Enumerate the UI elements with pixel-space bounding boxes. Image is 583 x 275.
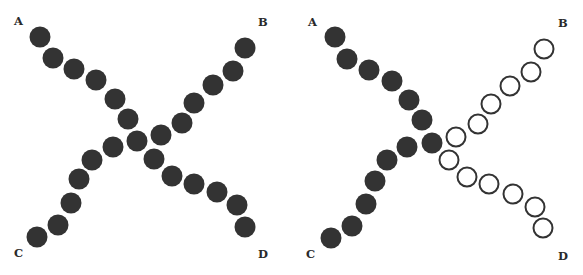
filled-dot [325, 27, 346, 48]
filled-dot [412, 110, 433, 131]
filled-dot [27, 227, 48, 248]
filled-dot [118, 109, 139, 130]
filled-dot [223, 61, 244, 82]
filled-dot [127, 131, 148, 152]
filled-dot [203, 75, 224, 96]
corner-label-a: A [307, 15, 318, 29]
filled-dot [397, 137, 418, 158]
corner-label-c: C [306, 247, 315, 261]
filled-dot [235, 38, 256, 59]
filled-dot [342, 216, 363, 237]
filled-dot [356, 194, 377, 215]
corner-label-d: D [258, 247, 268, 261]
hollow-dot [458, 168, 477, 187]
hollow-dot [440, 151, 459, 170]
filled-dot [399, 90, 420, 111]
filled-dot [337, 49, 358, 70]
corner-label-c: C [14, 246, 23, 260]
filled-dot [86, 70, 107, 91]
filled-dot [48, 215, 69, 236]
right-diagram: ABCD [290, 0, 583, 275]
hollow-dot [534, 219, 553, 238]
hollow-dot [504, 185, 523, 204]
filled-dot [184, 174, 205, 195]
path-D [440, 151, 553, 238]
corner-label-a: A [13, 14, 24, 28]
hollow-dot [526, 198, 545, 217]
hollow-dot [447, 128, 466, 147]
left-panel: ABCD [0, 0, 291, 275]
filled-dot [382, 71, 403, 92]
filled-dot [105, 89, 126, 110]
corner-label-b: B [258, 15, 268, 29]
hollow-dot [522, 63, 541, 82]
filled-dot [82, 150, 103, 171]
hollow-dot [482, 95, 501, 114]
hollow-dot [480, 175, 499, 194]
filled-dot [207, 182, 228, 203]
path-C [321, 137, 418, 249]
filled-dot [184, 93, 205, 114]
filled-dot [64, 59, 85, 80]
filled-dot [43, 48, 64, 69]
filled-dot [69, 169, 90, 190]
corner-label-d: D [558, 249, 568, 263]
filled-dot [377, 150, 398, 171]
filled-dot [227, 195, 248, 216]
filled-dot [151, 125, 172, 146]
hollow-dot [469, 115, 488, 134]
filled-dot [61, 193, 82, 214]
filled-dot [422, 133, 443, 154]
filled-dot [30, 27, 51, 48]
filled-dot [365, 171, 386, 192]
filled-dot [103, 137, 124, 158]
hollow-dot [501, 77, 520, 96]
filled-dot [144, 149, 165, 170]
filled-dot [359, 60, 380, 81]
path-A [325, 27, 443, 154]
left-diagram: ABCD [0, 0, 291, 275]
path-B [447, 40, 554, 147]
filled-dot [162, 166, 183, 187]
filled-dot [321, 228, 342, 249]
corner-label-b: B [558, 16, 568, 30]
right-panel: ABCD [290, 0, 581, 275]
hollow-dot [535, 40, 554, 59]
filled-dot [172, 113, 193, 134]
filled-dot [235, 217, 256, 238]
